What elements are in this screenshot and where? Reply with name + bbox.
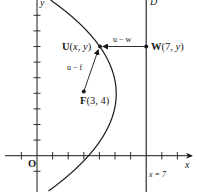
- vector-u-minus-f-label: u − f: [67, 63, 83, 72]
- point-w-name: W: [151, 41, 162, 52]
- point-w-label: W(7, y): [151, 41, 184, 53]
- x-axis-label: x: [184, 159, 190, 170]
- point-u: [98, 45, 102, 49]
- y-axis-label: y: [39, 0, 45, 8]
- vector-u-minus-w-label: u − w: [113, 35, 132, 44]
- vector-u-minus-f: [84, 50, 98, 92]
- origin-label: O: [28, 158, 36, 169]
- parabola-diagram: y x O D U(x, y) W(7, y) F(3, 4) u − w u …: [0, 0, 197, 196]
- directrix-label: D: [149, 0, 158, 7]
- point-u-label: U(x, y): [62, 41, 92, 53]
- focus-label: F(3, 4): [80, 95, 110, 107]
- point-f: [82, 90, 86, 94]
- diagram-canvas: y x O D U(x, y) W(7, y) F(3, 4) u − w u …: [0, 0, 197, 196]
- point-w: [144, 45, 148, 49]
- directrix-equation-label: x = 7: [148, 170, 167, 179]
